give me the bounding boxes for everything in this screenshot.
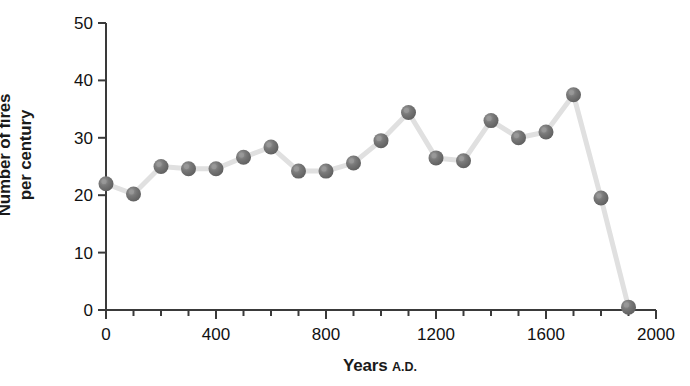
data-point[interactable]: 400 A.D.: 24.6 bbox=[209, 161, 224, 176]
data-point[interactable]: 1400 A.D.: 33 bbox=[484, 113, 499, 128]
data-point-marker bbox=[154, 159, 169, 174]
data-point-marker bbox=[126, 187, 141, 202]
data-point-marker bbox=[511, 130, 526, 145]
data-point-highlight bbox=[184, 164, 189, 169]
data-point-marker bbox=[566, 87, 581, 102]
data-point[interactable]: 0 A.D.: 22 bbox=[99, 176, 114, 191]
data-point-marker bbox=[181, 161, 196, 176]
data-point-marker bbox=[401, 105, 416, 120]
data-point-highlight bbox=[129, 189, 134, 194]
y-axis-tick-label: 30 bbox=[74, 129, 93, 148]
data-point-highlight bbox=[294, 166, 299, 171]
axes: 010203040500400800120016002000 bbox=[74, 14, 675, 344]
data-point-marker bbox=[621, 300, 636, 315]
y-axis-tick-label: 0 bbox=[84, 301, 93, 320]
data-point-highlight bbox=[541, 127, 546, 132]
data-point-highlight bbox=[459, 156, 464, 161]
y-axis-tick-label: 40 bbox=[74, 71, 93, 90]
data-point-highlight bbox=[156, 162, 161, 167]
data-point[interactable]: 700 A.D.: 24.2 bbox=[291, 164, 306, 179]
data-point-marker bbox=[456, 153, 471, 168]
data-point[interactable]: 100 A.D.: 20.2 bbox=[126, 187, 141, 202]
data-point-highlight bbox=[569, 90, 574, 95]
data-point[interactable]: 600 A.D.: 28.4 bbox=[264, 139, 279, 154]
x-axis-tick-label: 400 bbox=[202, 325, 230, 344]
x-axis-tick-label: 1600 bbox=[527, 325, 565, 344]
data-point-marker bbox=[236, 150, 251, 165]
data-point[interactable]: 200 A.D.: 25 bbox=[154, 159, 169, 174]
data-point[interactable]: 1700 A.D.: 37.5 bbox=[566, 87, 581, 102]
data-point[interactable]: 900 A.D.: 25.6 bbox=[346, 156, 361, 171]
data-point-marker bbox=[429, 150, 444, 165]
data-point-highlight bbox=[431, 153, 436, 158]
data-point-marker bbox=[539, 125, 554, 140]
data-point-marker bbox=[484, 113, 499, 128]
data-point-highlight bbox=[514, 133, 519, 138]
data-point[interactable]: 1100 A.D.: 34.4 bbox=[401, 105, 416, 120]
data-point-highlight bbox=[321, 166, 326, 171]
data-series: 0 A.D.: 22100 A.D.: 20.2200 A.D.: 25300 … bbox=[99, 87, 637, 314]
data-point[interactable]: 1200 A.D.: 26.5 bbox=[429, 150, 444, 165]
data-point[interactable]: 1900 A.D.: 0.5 bbox=[621, 300, 636, 315]
y-axis-tick-label: 50 bbox=[74, 14, 93, 33]
data-point-marker bbox=[594, 191, 609, 206]
data-point[interactable]: 500 A.D.: 26.6 bbox=[236, 150, 251, 165]
data-point-marker bbox=[99, 176, 114, 191]
chart-figure: Number of firesper century Years A.D. 01… bbox=[0, 0, 690, 386]
x-axis-tick-label: 0 bbox=[101, 325, 110, 344]
y-axis-tick-label: 10 bbox=[74, 244, 93, 263]
data-point-highlight bbox=[596, 193, 601, 198]
data-point-highlight bbox=[404, 108, 409, 113]
line-chart-plot: 010203040500400800120016002000 0 A.D.: 2… bbox=[0, 0, 690, 386]
data-point[interactable]: 1000 A.D.: 29.5 bbox=[374, 133, 389, 148]
data-point-highlight bbox=[239, 153, 244, 158]
x-axis-tick-label: 2000 bbox=[637, 325, 675, 344]
data-point-marker bbox=[319, 164, 334, 179]
data-point[interactable]: 1300 A.D.: 26 bbox=[456, 153, 471, 168]
data-point-highlight bbox=[349, 158, 354, 163]
data-point-highlight bbox=[376, 136, 381, 141]
data-point-highlight bbox=[486, 116, 491, 121]
data-point[interactable]: 800 A.D.: 24.2 bbox=[319, 164, 334, 179]
data-point[interactable]: 1600 A.D.: 31 bbox=[539, 125, 554, 140]
data-point-highlight bbox=[624, 302, 629, 307]
data-point[interactable]: 1500 A.D.: 30 bbox=[511, 130, 526, 145]
x-axis-tick-label: 800 bbox=[312, 325, 340, 344]
data-point-marker bbox=[291, 164, 306, 179]
data-point-highlight bbox=[211, 164, 216, 169]
data-point-marker bbox=[209, 161, 224, 176]
y-axis-tick-label: 20 bbox=[74, 186, 93, 205]
data-point[interactable]: 1800 A.D.: 19.5 bbox=[594, 191, 609, 206]
data-point-highlight bbox=[266, 142, 271, 147]
data-point[interactable]: 300 A.D.: 24.6 bbox=[181, 161, 196, 176]
data-point-highlight bbox=[101, 179, 106, 184]
data-point-marker bbox=[346, 156, 361, 171]
data-point-marker bbox=[264, 139, 279, 154]
data-point-marker bbox=[374, 133, 389, 148]
x-axis-tick-label: 1200 bbox=[417, 325, 455, 344]
